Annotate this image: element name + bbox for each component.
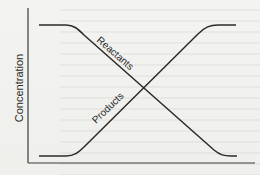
y-axis-label: Concentration <box>13 54 25 123</box>
products-label: Products <box>90 90 126 125</box>
chart-figure: Concentration Reactants Products <box>0 0 260 175</box>
reactants-curve <box>39 25 237 156</box>
reactants-label: Reactants <box>95 34 136 72</box>
chart-svg: Concentration Reactants Products <box>0 0 260 175</box>
products-curve <box>39 25 236 156</box>
